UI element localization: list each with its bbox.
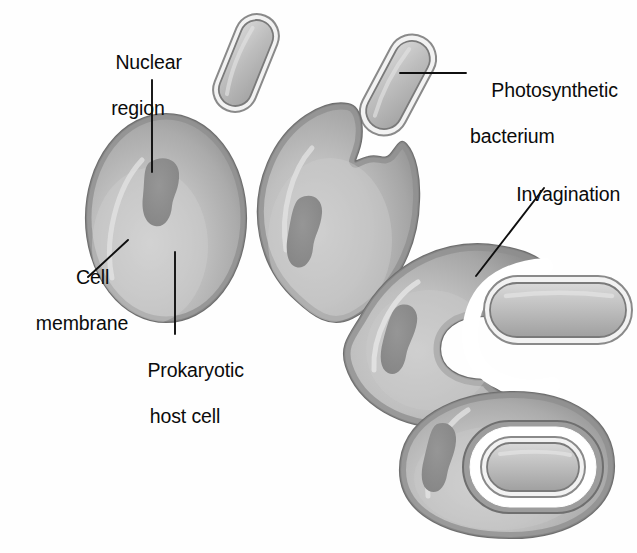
label-photosynthetic-bacterium-line2: bacterium [470,125,635,148]
photosynthetic-bacterium-free-2 [351,26,444,144]
label-prokaryotic-host-cell-line2: host cell [104,405,266,428]
label-nuclear-region-line1: Nuclear [115,51,182,73]
photosynthetic-bacterium-engulfed-3 [484,276,632,344]
label-prokaryotic-host-cell: Prokaryotic host cell [104,336,266,474]
label-cell-membrane-line1: Cell [76,266,109,288]
label-nuclear-region: Nuclear region [78,28,198,166]
label-photosynthetic-bacterium-line1: Photosynthetic [491,79,618,101]
stage-4-host-cell-enclosed [400,392,614,538]
label-cell-membrane-line2: membrane [14,312,150,335]
label-invagination-line1: Invagination [516,183,620,205]
label-invagination: Invagination [495,160,635,229]
label-prokaryotic-host-cell-line1: Prokaryotic [147,359,243,381]
photosynthetic-bacterium-free-1 [206,7,285,118]
label-nuclear-region-line2: region [78,97,198,120]
diagram-canvas: Nuclear region Photosynthetic bacterium … [0,0,637,553]
